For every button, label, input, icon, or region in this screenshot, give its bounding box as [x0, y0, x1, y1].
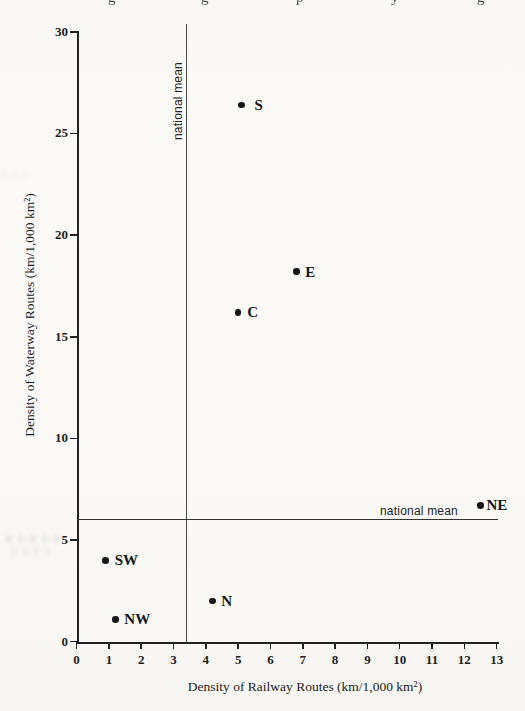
cropped-letter: g — [201, 0, 209, 6]
x-tick-label: 6 — [256, 652, 284, 668]
y-tick-label: 5 — [40, 532, 68, 548]
cropped-letter: p — [296, 0, 304, 6]
x-tick-label: 4 — [192, 652, 220, 668]
y-tick-label: 30 — [40, 24, 68, 40]
x-tick — [140, 643, 142, 649]
data-point-label: C — [247, 303, 258, 321]
x-tick-label: 3 — [160, 652, 188, 668]
x-tick-label: 8 — [321, 652, 349, 668]
x-tick — [399, 643, 401, 649]
x-tick-label: 2 — [127, 652, 155, 668]
waterway-national-mean-label: national mean — [340, 504, 458, 518]
y-tick-label: 15 — [40, 329, 68, 345]
x-axis-title: Density of Railway Routes (km/1,000 km²) — [95, 679, 515, 695]
data-point — [209, 598, 216, 605]
x-tick-label: 12 — [450, 652, 478, 668]
y-axis-line — [77, 31, 79, 643]
x-tick-label: 9 — [353, 652, 381, 668]
y-tick — [70, 438, 77, 440]
x-tick-label: 5 — [224, 652, 252, 668]
x-tick — [496, 643, 498, 649]
y-tick — [70, 336, 77, 338]
cropped-letter: g — [108, 0, 116, 6]
scan-artifact — [12, 548, 52, 555]
data-point-label: E — [305, 263, 315, 281]
cropped-letter: g — [477, 0, 485, 6]
data-point — [102, 557, 109, 564]
x-tick — [334, 643, 336, 649]
railway-mean-line — [186, 24, 187, 643]
scatter-plot-figure: ggpyg 012345678910111213051015202530SECN… — [0, 0, 525, 711]
y-tick — [70, 133, 77, 135]
x-tick — [173, 643, 175, 649]
x-tick — [205, 643, 207, 649]
x-tick — [270, 643, 272, 649]
y-tick-label: 25 — [40, 125, 68, 141]
x-tick — [302, 643, 304, 649]
cropped-header-text: ggpyg — [0, 0, 525, 6]
y-tick-label: 0 — [40, 634, 68, 650]
x-tick-label: 0 — [63, 652, 91, 668]
x-tick — [108, 643, 110, 649]
x-tick — [431, 643, 433, 649]
x-tick-label: 13 — [483, 652, 511, 668]
data-point-label: NW — [124, 610, 150, 628]
data-point-label: NE — [486, 496, 507, 514]
data-point-label: S — [254, 96, 262, 114]
y-tick — [70, 641, 77, 643]
data-point-label: SW — [115, 551, 138, 569]
data-point — [293, 268, 300, 275]
y-axis-title: Density of Waterway Routes (km/1,000 km²… — [22, 165, 40, 465]
waterway-mean-line — [78, 519, 498, 521]
y-tick — [70, 31, 77, 33]
data-point-label: N — [221, 592, 232, 610]
y-tick-label: 20 — [40, 227, 68, 243]
x-tick-label: 10 — [386, 652, 414, 668]
x-tick — [76, 643, 78, 649]
x-tick — [367, 643, 369, 649]
railway-national-mean-label: national mean — [171, 39, 185, 164]
data-point — [235, 309, 242, 316]
y-tick — [70, 539, 77, 541]
cropped-letter: y — [391, 0, 399, 6]
y-tick-label: 10 — [40, 430, 68, 446]
x-tick — [464, 643, 466, 649]
y-tick — [70, 234, 77, 236]
x-tick-label: 11 — [418, 652, 446, 668]
x-axis-line — [76, 642, 499, 644]
x-tick — [237, 643, 239, 649]
data-point — [238, 102, 245, 109]
data-point — [477, 502, 484, 509]
x-tick-label: 7 — [289, 652, 317, 668]
data-point — [112, 616, 119, 623]
x-tick-label: 1 — [95, 652, 123, 668]
